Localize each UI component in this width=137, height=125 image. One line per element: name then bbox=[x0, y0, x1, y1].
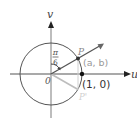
origin-label: 0 bbox=[45, 76, 51, 86]
point-p-coords-label: (a, b) bbox=[83, 57, 108, 68]
v-axis-label: v bbox=[47, 8, 54, 21]
u-axis-label: u bbox=[131, 68, 137, 81]
point-p-label: P bbox=[77, 47, 85, 57]
angle-label-denominator: 6 bbox=[53, 58, 58, 67]
point-one-zero bbox=[80, 72, 84, 76]
angle-label-numerator: π bbox=[52, 48, 59, 57]
point-p-prime-label: P' bbox=[78, 92, 87, 102]
point-p bbox=[76, 57, 80, 61]
unit-circle-diagram: v u 0 π 6 P (a, b) (1, 0) P' bbox=[0, 0, 137, 125]
v-axis-arrow-icon bbox=[48, 21, 54, 28]
u-axis-arrow-icon bbox=[124, 71, 131, 77]
point-one-zero-label: (1, 0) bbox=[82, 78, 110, 90]
reflection-segment bbox=[51, 74, 78, 90]
